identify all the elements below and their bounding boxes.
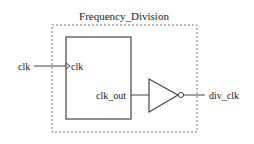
block-output-port-label: clk_out	[96, 90, 126, 101]
external-input-label: clk	[18, 61, 30, 72]
module-boundary	[52, 25, 197, 132]
inversion-bubble-icon	[178, 92, 183, 97]
module-title: Frequency_Division	[79, 10, 169, 22]
divider-block	[66, 37, 131, 119]
block-input-port-label: clk	[71, 61, 83, 72]
external-output-label: div_clk	[209, 90, 239, 101]
frequency-division-diagram: Frequency_Division clk clk clk_out div_c…	[0, 0, 254, 144]
inverter-icon	[149, 79, 178, 112]
